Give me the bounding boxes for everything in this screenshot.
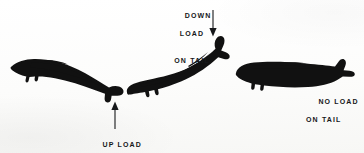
annotation-no-load: NO LOAD ON TAIL <box>306 88 360 142</box>
annotation-down-load-line2: LOAD <box>166 29 218 38</box>
annotation-up-load: UP LOAD ON TAIL <box>88 131 144 153</box>
annotation-up-load-line1: UP LOAD <box>102 141 141 148</box>
annotation-down-load: DOWN LOAD ON TAIL <box>166 2 218 83</box>
annotation-no-load-line2: ON TAIL <box>306 115 360 124</box>
annotation-down-load-line3: ON TAIL <box>166 56 218 65</box>
aircraft-tail-load-diagram: UP LOAD ON TAIL DOWN LOAD ON TAIL <box>0 0 364 153</box>
arrowhead-up-icon <box>111 102 118 111</box>
leader-line-up-load <box>108 100 122 130</box>
annotation-down-load-line1: DOWN <box>185 12 212 19</box>
annotation-no-load-line1: NO LOAD <box>318 98 358 105</box>
